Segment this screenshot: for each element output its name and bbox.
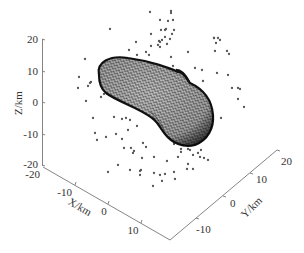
scatter-point: [227, 74, 229, 76]
scatter-point: [132, 152, 134, 154]
z-tick-20: 20: [27, 33, 39, 45]
scatter-point: [237, 87, 239, 89]
scatter-point: [123, 147, 125, 149]
scatter-point: [217, 37, 219, 39]
scatter-point: [141, 157, 143, 159]
scatter-point: [149, 11, 151, 13]
scatter-point: [171, 33, 173, 35]
scatter-point: [159, 19, 161, 21]
scatter-point: [159, 46, 161, 48]
scatter-point: [159, 174, 161, 176]
scatter-point: [243, 106, 245, 108]
scatter-point: [160, 29, 162, 31]
scatter-point: [153, 156, 155, 158]
z-tick-10: 10: [27, 65, 39, 77]
scatter-point: [165, 28, 167, 30]
scatter-point: [136, 125, 138, 127]
scatter-point: [219, 39, 221, 41]
scatter-point: [239, 88, 241, 90]
scatter-point: [197, 152, 199, 154]
scatter-point: [237, 98, 239, 100]
y-tick-0: 0: [230, 197, 236, 209]
scatter-point: [201, 69, 203, 71]
x-tick-neg20: -20: [25, 168, 40, 180]
scatter-point: [189, 149, 191, 151]
scatter-point: [180, 148, 182, 150]
scatter-point: [128, 49, 130, 51]
scatter-point: [172, 19, 174, 21]
scatter-point: [148, 54, 150, 56]
scatter-point: [173, 171, 175, 173]
scatter-point: [77, 87, 79, 89]
scatter-point: [152, 185, 154, 187]
scatter-point: [161, 39, 163, 41]
scatter-point: [96, 139, 98, 141]
scatter-point: [153, 172, 155, 174]
scatter-point: [164, 36, 166, 38]
z-tick-neg10: -10: [23, 128, 38, 140]
x-tick-0: 0: [101, 205, 107, 217]
scatter-point: [117, 164, 119, 166]
scatter-point: [231, 87, 233, 89]
scatter-point: [215, 42, 217, 44]
scatter-point: [107, 171, 109, 173]
x-axis-label: X/km: [66, 195, 94, 218]
scatter-point: [170, 56, 172, 58]
scatter-point: [142, 142, 144, 144]
scatter-point: [192, 168, 194, 170]
scatter-point: [173, 29, 175, 31]
scatter-point: [180, 151, 182, 153]
scatter-point: [133, 150, 135, 152]
scatter-point: [161, 180, 163, 182]
y-tick-10: 10: [256, 173, 268, 185]
scatter-point: [129, 169, 131, 171]
scatter-point: [121, 118, 123, 120]
scatter-point: [187, 163, 189, 165]
scatter-point: [105, 136, 107, 138]
scatter-point: [170, 12, 172, 14]
scatter-point: [113, 116, 115, 118]
scatter-point: [150, 33, 152, 35]
scatter-point: [192, 154, 194, 156]
z-axis: 20 10 0 -10 -20 Z/km: [12, 33, 45, 170]
3d-plot: 20 10 0 -10 -20 Z/km -20 -10 0 10 X/km -…: [0, 0, 304, 253]
scatter-point: [164, 173, 166, 175]
scatter-point: [207, 159, 209, 161]
scatter-point: [170, 10, 172, 12]
scatter-point: [115, 133, 117, 135]
scatter-point: [187, 51, 189, 53]
scatter-point: [90, 81, 92, 83]
scatter-point: [140, 169, 142, 171]
scatter-point: [177, 156, 179, 158]
scatter-point: [203, 157, 205, 159]
scatter-point: [202, 80, 204, 82]
scatter-point: [159, 41, 161, 43]
scatter-point: [200, 149, 202, 151]
scatter-point: [85, 100, 87, 102]
y-axis-label: Y/km: [238, 194, 265, 221]
scatter-point: [136, 54, 138, 56]
scatter-point: [130, 147, 132, 149]
scatter-point: [213, 37, 215, 39]
scatter-point: [150, 45, 152, 47]
scatter-point: [94, 132, 96, 134]
scatter-point: [145, 51, 147, 53]
z-tick-0: 0: [33, 96, 39, 108]
scatter-point: [87, 85, 89, 87]
scatter-point: [187, 148, 189, 150]
scatter-point: [92, 117, 94, 119]
scatter-point: [220, 117, 222, 119]
scatter-point: [186, 168, 188, 170]
scatter-point: [100, 96, 102, 98]
scatter-point: [125, 117, 127, 119]
scatter-point: [214, 50, 216, 52]
scatter-point: [145, 146, 147, 148]
scatter-point: [167, 20, 169, 22]
scatter-point: [216, 72, 218, 74]
scatter-point: [166, 160, 168, 162]
y-tick-20: 20: [281, 155, 293, 167]
scatter-point: [172, 65, 174, 67]
scatter-point: [78, 76, 80, 78]
x-axis: -20 -10 0 10 X/km: [25, 167, 170, 240]
scatter-point: [199, 156, 201, 158]
